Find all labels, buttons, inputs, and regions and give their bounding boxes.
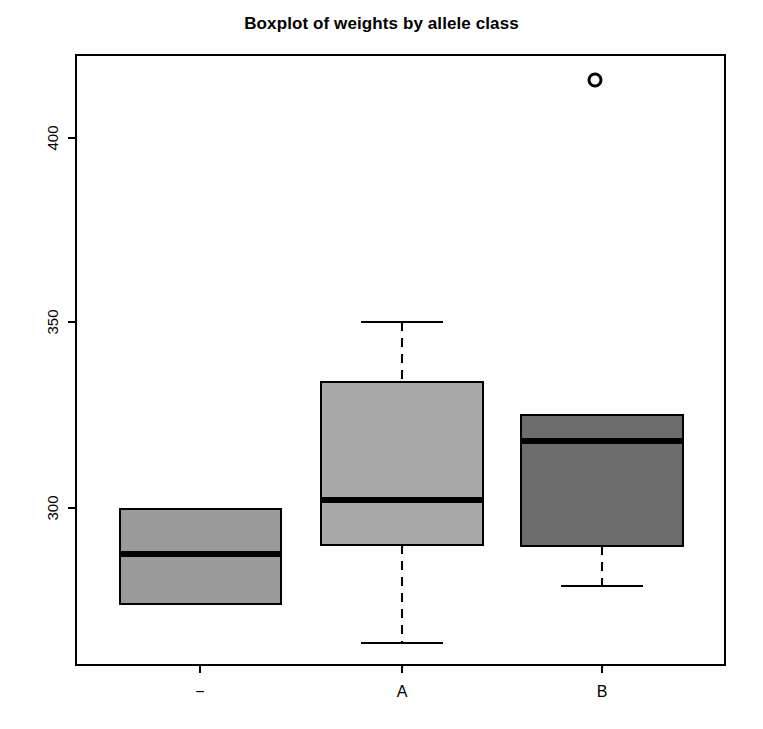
outlier-point-b <box>589 74 601 86</box>
box-group-dash <box>120 509 281 604</box>
box-body-a <box>321 382 483 545</box>
box-group-a <box>321 322 483 643</box>
x-category-label-b: B <box>597 683 608 700</box>
box-group-b <box>521 74 683 586</box>
y-tick-label-400: 400 <box>44 125 61 150</box>
boxplot-figure: Boxplot of weights by allele class 400 3… <box>0 0 763 729</box>
x-axis-ticks <box>200 665 602 673</box>
box-body-b <box>521 415 683 546</box>
boxplot-canvas: 400 350 300 − A B <box>0 0 763 729</box>
x-category-label-dash: − <box>195 683 204 700</box>
y-tick-label-350: 350 <box>44 309 61 334</box>
y-axis-ticks <box>68 138 76 508</box>
y-tick-label-300: 300 <box>44 495 61 520</box>
x-category-label-a: A <box>397 683 408 700</box>
